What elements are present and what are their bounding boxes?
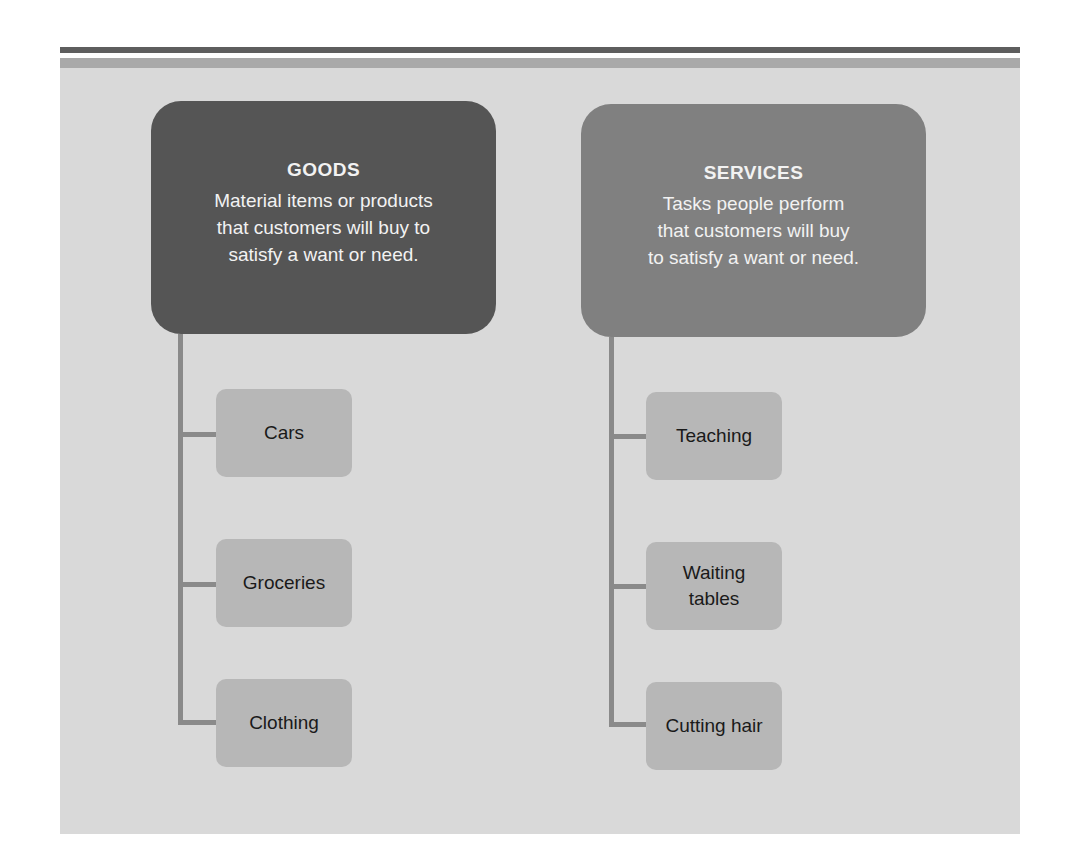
services-connector-trunk [609, 337, 614, 726]
services-item-waiting-tables: Waiting tables [646, 542, 782, 630]
goods-item-groceries: Groceries [216, 539, 352, 627]
goods-connector-branch [178, 432, 218, 437]
services-connector-branch [609, 434, 649, 439]
services-title: SERVICES [704, 162, 804, 184]
goods-item-clothing: Clothing [216, 679, 352, 767]
services-description: Tasks people perform that customers will… [648, 190, 859, 271]
goods-connector-branch [178, 720, 218, 725]
services-connector-branch [609, 722, 649, 727]
goods-connector-trunk [178, 334, 183, 723]
goods-connector-branch [178, 582, 218, 587]
goods-title: GOODS [287, 159, 360, 181]
services-header-box: SERVICES Tasks people perform that custo… [581, 104, 926, 337]
services-item-cutting-hair: Cutting hair [646, 682, 782, 770]
goods-item-cars: Cars [216, 389, 352, 477]
goods-header-box: GOODS Material items or products that cu… [151, 101, 496, 334]
services-connector-branch [609, 584, 649, 589]
top-rule-light [60, 58, 1020, 68]
top-rule-dark [60, 47, 1020, 53]
services-item-teaching: Teaching [646, 392, 782, 480]
goods-description: Material items or products that customer… [214, 187, 433, 268]
